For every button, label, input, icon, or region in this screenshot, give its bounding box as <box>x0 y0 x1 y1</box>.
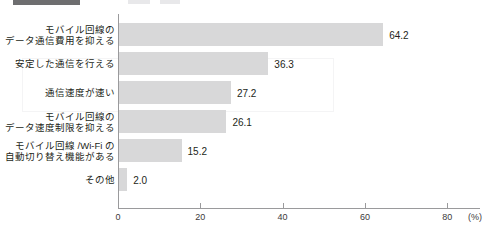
bar-row: モバイル回線 /Wi-Fi の 自動切り替え機能がある15.2 <box>0 139 497 162</box>
axis-tick-label: 40 <box>268 212 298 222</box>
value-axis-line <box>118 208 480 209</box>
bar <box>119 168 127 191</box>
bar-row: その他2.0 <box>0 168 497 191</box>
bar <box>119 139 182 162</box>
bar-value-label: 36.3 <box>274 58 293 69</box>
bar-value-label: 64.2 <box>389 29 408 40</box>
axis-tick-label: 60 <box>350 212 380 222</box>
axis-tick-mark <box>283 203 284 209</box>
bar-row: モバイル回線の データ通信費用を抑える64.2 <box>0 23 497 46</box>
bar <box>119 110 226 133</box>
bar-value-label: 27.2 <box>237 87 256 98</box>
axis-tick-label: 80 <box>432 212 462 222</box>
bar-value-label: 2.0 <box>133 174 147 185</box>
horizontal-bar-chart: 020406080 モバイル回線の データ通信費用を抑える64.2安定した通信を… <box>0 0 497 238</box>
axis-tick-label: 0 <box>103 212 133 222</box>
axis-tick-label: 20 <box>185 212 215 222</box>
axis-tick-mark <box>118 203 119 209</box>
bar-value-label: 15.2 <box>188 145 207 156</box>
category-label: モバイル回線の データ速度制限を抑える <box>3 110 115 133</box>
bar-row: 安定した通信を行える36.3 <box>0 52 497 75</box>
axis-tick-mark <box>447 203 448 209</box>
bar <box>119 81 231 104</box>
category-label: モバイル回線 /Wi-Fi の 自動切り替え機能がある <box>3 139 115 162</box>
bar <box>119 23 383 46</box>
axis-tick-mark <box>200 203 201 209</box>
category-label: モバイル回線の データ通信費用を抑える <box>3 23 115 46</box>
bar-row: 通信速度が速い27.2 <box>0 81 497 104</box>
category-label: 通信速度が速い <box>3 87 115 99</box>
category-label: その他 <box>3 174 115 186</box>
category-label: 安定した通信を行える <box>3 58 115 70</box>
axis-unit-label: (%) <box>468 212 482 222</box>
bar-row: モバイル回線の データ速度制限を抑える26.1 <box>0 110 497 133</box>
axis-tick-mark <box>365 203 366 209</box>
bar-value-label: 26.1 <box>232 116 251 127</box>
bar <box>119 52 268 75</box>
